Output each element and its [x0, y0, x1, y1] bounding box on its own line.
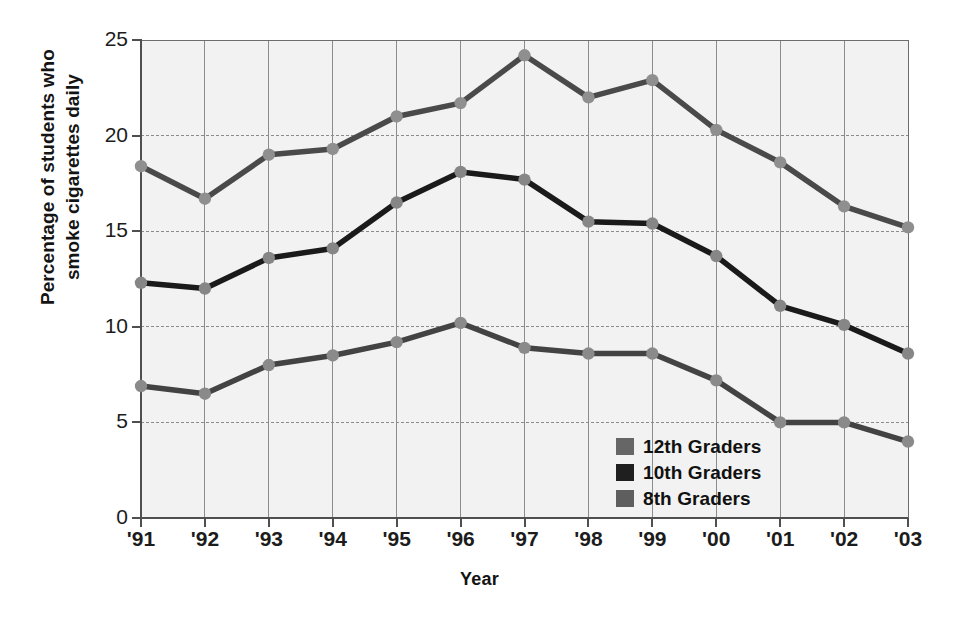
chart-figure: Percentage of students who smoke cigaret…: [0, 0, 959, 628]
data-point-marker: [902, 221, 914, 233]
data-point-marker: [646, 217, 658, 229]
data-point-marker: [518, 342, 530, 354]
y-axis-title-line-2: smoke cigarettes daily: [62, 74, 83, 280]
x-axis-tick-label: '94: [305, 528, 361, 549]
data-point-marker: [710, 250, 722, 262]
y-axis-title: Percentage of students who smoke cigaret…: [35, 0, 85, 387]
y-axis-tick-label: 25: [86, 28, 128, 49]
data-point-marker: [646, 347, 658, 359]
x-axis-tick-label: '01: [752, 528, 808, 549]
data-point-marker: [582, 91, 594, 103]
y-axis-tick-label: 20: [86, 124, 128, 145]
data-point-marker: [454, 317, 466, 329]
data-point-marker: [646, 74, 658, 86]
data-point-marker: [199, 388, 211, 400]
x-axis-tick-label: '95: [369, 528, 425, 549]
data-point-marker: [710, 374, 722, 386]
y-axis-title-line-1: Percentage of students who: [37, 49, 58, 305]
data-point-marker: [199, 282, 211, 294]
legend-item: 8th Graders: [616, 486, 761, 511]
legend-item: 10th Graders: [616, 460, 761, 485]
y-axis-tick-label: 0: [86, 506, 128, 527]
data-point-marker: [774, 300, 786, 312]
legend-swatch-8th-graders: [616, 490, 634, 507]
x-axis-tick-label: '92: [177, 528, 233, 549]
x-axis-tick-label: '93: [241, 528, 297, 549]
data-point-marker: [838, 416, 850, 428]
x-axis-tick-label: '03: [880, 528, 936, 549]
data-point-marker: [390, 196, 402, 208]
data-point-marker: [390, 336, 402, 348]
x-axis-tick-label: '97: [497, 528, 553, 549]
data-point-marker: [454, 166, 466, 178]
chart-legend: 12th Graders 10th Graders 8th Graders: [616, 434, 761, 512]
data-point-marker: [327, 242, 339, 254]
data-point-marker: [135, 160, 147, 172]
legend-swatch-10th-graders: [616, 464, 634, 481]
data-point-marker: [327, 143, 339, 155]
x-axis-title: Year: [0, 569, 959, 590]
legend-label-10th-graders: 10th Graders: [643, 462, 761, 484]
data-point-marker: [327, 349, 339, 361]
y-axis-tick-label: 15: [86, 219, 128, 240]
x-axis-tick-label: '91: [113, 528, 169, 549]
x-axis-tick-label: '96: [433, 528, 489, 549]
data-point-marker: [518, 173, 530, 185]
data-point-marker: [263, 359, 275, 371]
data-point-marker: [263, 149, 275, 161]
data-point-marker: [582, 347, 594, 359]
data-point-marker: [390, 110, 402, 122]
data-point-marker: [518, 49, 530, 61]
data-point-marker: [710, 124, 722, 136]
x-axis-tick-label: '00: [688, 528, 744, 549]
legend-label-12th-graders: 12th Graders: [643, 436, 761, 458]
data-point-marker: [135, 380, 147, 392]
x-axis-tick-label: '02: [816, 528, 872, 549]
data-point-marker: [902, 347, 914, 359]
y-axis-tick-label: 10: [86, 315, 128, 336]
data-point-marker: [774, 156, 786, 168]
data-point-marker: [582, 215, 594, 227]
y-axis-tick-label: 5: [86, 410, 128, 431]
data-point-marker: [135, 277, 147, 289]
data-point-marker: [838, 200, 850, 212]
legend-label-8th-graders: 8th Graders: [643, 488, 751, 510]
data-point-marker: [263, 252, 275, 264]
legend-swatch-12th-graders: [616, 438, 634, 455]
data-point-marker: [838, 319, 850, 331]
data-point-marker: [902, 435, 914, 447]
x-axis-tick-label: '99: [624, 528, 680, 549]
x-axis-tick-label: '98: [560, 528, 616, 549]
data-point-marker: [199, 193, 211, 205]
data-point-marker: [774, 416, 786, 428]
data-point-marker: [454, 97, 466, 109]
legend-item: 12th Graders: [616, 434, 761, 459]
